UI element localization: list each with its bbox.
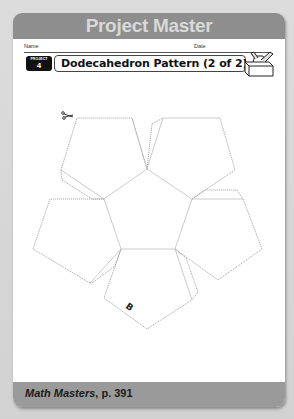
flap-top-right (147, 124, 152, 169)
flap-bottom (175, 249, 198, 300)
fold-line-bottom-right (175, 249, 192, 300)
scissors-icon (62, 112, 73, 120)
fold-line-top-left-right (132, 118, 147, 169)
fold-line-top-left (61, 170, 104, 199)
flap-right (192, 190, 243, 199)
fold-line-top-right (147, 118, 163, 169)
dodecahedron-pattern (0, 0, 294, 419)
fold-line-center-face (104, 169, 192, 249)
cut-line-left-face (33, 199, 104, 283)
fold-line-left-lower (90, 249, 121, 283)
cut-line-top-right-face (152, 118, 235, 199)
